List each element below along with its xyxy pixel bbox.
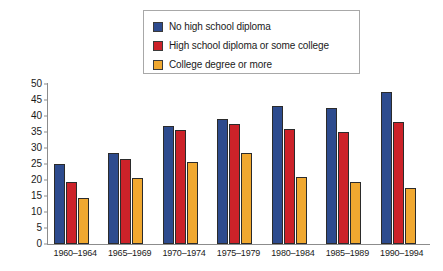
- legend-item: No high school diploma: [153, 18, 359, 36]
- bar: [405, 188, 416, 244]
- x-axis-line: [47, 244, 430, 245]
- x-axis-tick-label: 1960–1964: [48, 248, 102, 259]
- bar-groups: [48, 84, 429, 244]
- x-axis-tick-label: 1990–1994: [375, 248, 429, 259]
- chart-legend: No high school diploma High school diplo…: [143, 10, 360, 74]
- bar: [229, 124, 240, 244]
- legend-swatch-icon: [153, 41, 163, 51]
- bar: [338, 132, 349, 244]
- bar-group: [102, 84, 156, 244]
- legend-item-label: High school diploma or some college: [169, 41, 329, 51]
- x-axis-tick-label: 1965–1969: [102, 248, 156, 259]
- bar-group: [375, 84, 429, 244]
- x-axis-tick-label: 1980–1984: [266, 248, 320, 259]
- x-axis-tick-label: 1970–1974: [157, 248, 211, 259]
- bar: [381, 92, 392, 244]
- plot-area: 05101520253035404550: [48, 84, 429, 244]
- bar: [350, 182, 361, 244]
- bar: [132, 178, 143, 244]
- bar: [54, 164, 65, 244]
- legend-item-label: No high school diploma: [169, 22, 271, 32]
- x-axis-tick-label: 1985–1989: [320, 248, 374, 259]
- bar-group: [48, 84, 102, 244]
- bar-chart: No high school diploma High school diplo…: [0, 0, 443, 271]
- bar: [175, 130, 186, 244]
- legend-item: High school diploma or some college: [153, 37, 359, 55]
- bar: [326, 108, 337, 244]
- bar-group: [157, 84, 211, 244]
- bar: [78, 198, 89, 244]
- bar: [272, 106, 283, 244]
- bar: [66, 182, 77, 244]
- bar-group: [266, 84, 320, 244]
- legend-swatch-icon: [153, 60, 163, 70]
- bar: [120, 159, 131, 244]
- bar-group: [320, 84, 374, 244]
- bar: [241, 153, 252, 244]
- bar: [163, 126, 174, 244]
- x-axis-labels: 1960–19641965–19691970–19741975–19791980…: [48, 248, 429, 259]
- bar: [187, 162, 198, 244]
- x-axis-tick-label: 1975–1979: [211, 248, 265, 259]
- bar: [296, 177, 307, 244]
- legend-item-label: College degree or more: [169, 60, 272, 70]
- bar: [393, 122, 404, 244]
- bar-group: [211, 84, 265, 244]
- legend-item: College degree or more: [153, 56, 359, 74]
- legend-swatch-icon: [153, 22, 163, 32]
- bar: [284, 129, 295, 244]
- bar: [217, 119, 228, 244]
- bar: [108, 153, 119, 244]
